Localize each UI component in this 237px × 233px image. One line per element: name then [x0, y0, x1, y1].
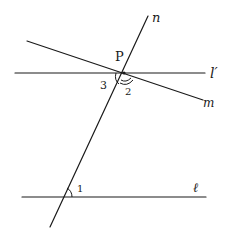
angle-2-arc — [121, 78, 131, 81]
line-n — [50, 16, 148, 227]
label-p: P — [115, 49, 124, 64]
label-n: n — [152, 10, 160, 25]
label-m: m — [203, 96, 214, 110]
label-angle-2: 2 — [125, 86, 131, 97]
geometry-diagram: n P l′ m 3 2 1 ℓ — [0, 0, 237, 233]
label-angle-3: 3 — [100, 79, 107, 92]
label-l: ℓ — [193, 180, 199, 195]
label-l-prime: l′ — [210, 65, 218, 81]
point-p — [122, 71, 125, 74]
label-angle-1: 1 — [77, 183, 83, 194]
